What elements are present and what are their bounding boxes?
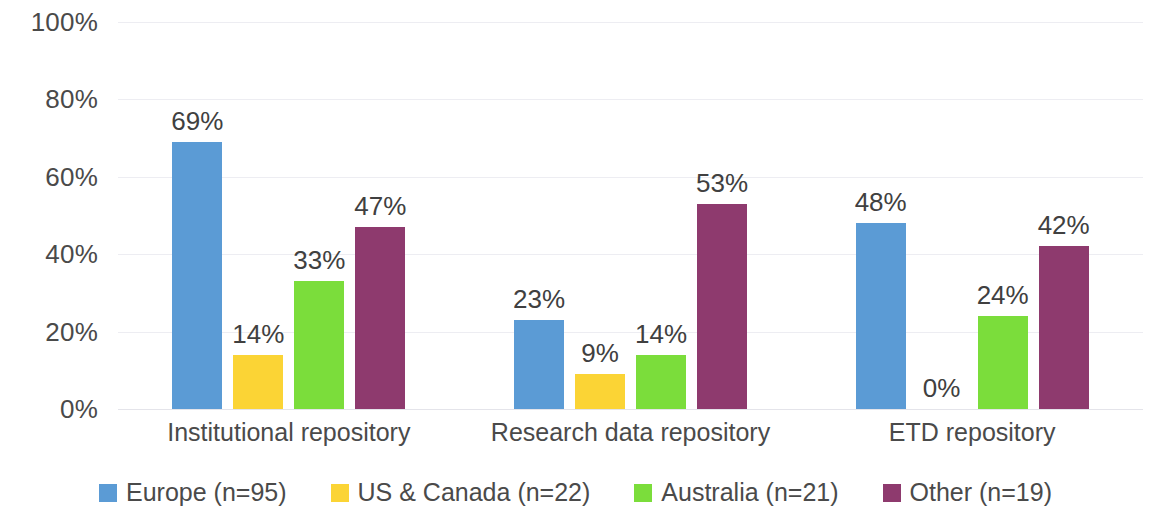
- y-axis-tick-label: 60%: [45, 161, 98, 192]
- bar[interactable]: [355, 227, 405, 409]
- bar-value-label: 42%: [1038, 212, 1090, 238]
- bar-group: 23%9%14%53%: [514, 22, 747, 409]
- axis-baseline: [118, 409, 1143, 410]
- legend-label: Other (n=19): [910, 478, 1052, 507]
- bar-value-label: 53%: [696, 170, 748, 196]
- y-axis: 100%80%60%40%20%0%: [0, 0, 110, 430]
- bar[interactable]: [697, 204, 747, 409]
- chart-legend: Europe (n=95)US & Canada (n=22)Australia…: [0, 478, 1151, 522]
- y-axis-tick-label: 80%: [45, 84, 98, 115]
- bar-value-label: 14%: [232, 321, 284, 347]
- bar-group: 48%0%24%42%: [856, 22, 1089, 409]
- bar-value-label: 14%: [635, 321, 687, 347]
- bar-value-label: 23%: [513, 286, 565, 312]
- grouped-bar-chart: 100%80%60%40%20%0% 69%14%33%47%23%9%14%5…: [0, 0, 1151, 522]
- category-label: Research data repository: [491, 418, 770, 447]
- y-axis-tick-label: 0%: [60, 394, 98, 425]
- bar-value-label: 69%: [171, 108, 223, 134]
- legend-item[interactable]: Australia (n=21): [634, 478, 838, 507]
- legend-swatch-icon: [331, 484, 349, 502]
- y-axis-tick-label: 100%: [31, 7, 98, 38]
- legend-label: Europe (n=95): [126, 478, 287, 507]
- category-axis-labels: Institutional repositoryResearch data re…: [118, 418, 1143, 462]
- legend-label: US & Canada (n=22): [358, 478, 591, 507]
- bar-value-label: 24%: [977, 282, 1029, 308]
- bar-value-label: 33%: [293, 247, 345, 273]
- legend-item[interactable]: US & Canada (n=22): [331, 478, 591, 507]
- bar[interactable]: [636, 355, 686, 409]
- bar[interactable]: [514, 320, 564, 409]
- bar[interactable]: [233, 355, 283, 409]
- plot-area: 69%14%33%47%23%9%14%53%48%0%24%42%: [118, 22, 1143, 409]
- bar-value-label: 48%: [855, 189, 907, 215]
- y-axis-tick-label: 40%: [45, 239, 98, 270]
- category-label: Institutional repository: [167, 418, 410, 447]
- bar-group: 69%14%33%47%: [172, 22, 405, 409]
- y-axis-tick-label: 20%: [45, 316, 98, 347]
- legend-swatch-icon: [634, 484, 652, 502]
- bar[interactable]: [978, 316, 1028, 409]
- bar[interactable]: [172, 142, 222, 409]
- bar[interactable]: [294, 281, 344, 409]
- bar[interactable]: [575, 374, 625, 409]
- legend-item[interactable]: Other (n=19): [883, 478, 1052, 507]
- bar[interactable]: [856, 223, 906, 409]
- legend-swatch-icon: [99, 484, 117, 502]
- bar[interactable]: [1039, 246, 1089, 409]
- bar-value-label: 9%: [581, 340, 619, 366]
- bar-value-label: 0%: [923, 375, 961, 401]
- legend-item[interactable]: Europe (n=95): [99, 478, 287, 507]
- legend-label: Australia (n=21): [661, 478, 838, 507]
- legend-swatch-icon: [883, 484, 901, 502]
- category-label: ETD repository: [889, 418, 1056, 447]
- bar-value-label: 47%: [354, 193, 406, 219]
